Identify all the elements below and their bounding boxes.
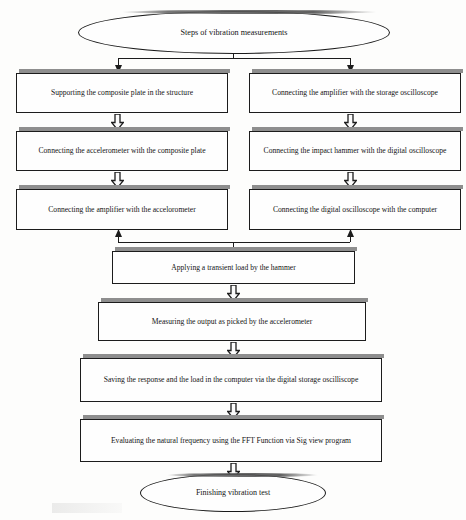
node-left-2-label: Connecting the accelerometer with the co… (39, 146, 206, 156)
box-shadow (19, 69, 230, 73)
block-arrow-down-icon (111, 172, 124, 188)
ellipse-shadow (122, 10, 376, 14)
node-end-ellipse: Finishing vibration test (140, 474, 326, 512)
box-shadow (19, 185, 230, 189)
node-start-ellipse: Steps of vibration measurements (78, 11, 390, 54)
node-left-2: Connecting the accelerometer with the co… (16, 131, 228, 171)
merge-connector-stem (233, 242, 234, 251)
thin-arrow-up-icon (347, 229, 354, 237)
block-arrow-down-icon (344, 172, 357, 188)
node-right-3: Connecting the digital oscilloscope with… (249, 189, 461, 230)
node-left-3-label: Connecting the amplifier with the accelo… (48, 205, 195, 215)
node-merged-3-label: Saving the response and the load in the … (104, 375, 359, 385)
split-connector-bar (118, 58, 350, 59)
node-merged-4: Evaluating the natural frequency using t… (80, 419, 382, 462)
box-shadow (252, 69, 463, 73)
node-left-3: Connecting the amplifier with the accelo… (16, 189, 228, 230)
box-shadow (252, 185, 463, 189)
node-right-1: Connecting the amplifier with the storag… (249, 73, 461, 113)
node-merged-4-label: Evaluating the natural frequency using t… (111, 436, 351, 446)
thin-arrow-up-icon (115, 229, 122, 237)
thin-arrow-down-icon (115, 65, 122, 73)
box-shadow (252, 127, 463, 131)
thin-arrow-down-icon (347, 65, 354, 73)
box-shadow (19, 127, 230, 131)
ellipse-shadow (167, 473, 318, 477)
block-arrow-down-icon (227, 342, 240, 358)
block-arrow-down-icon (227, 403, 240, 419)
merge-connector-bar (118, 242, 350, 243)
node-merged-2: Measuring the output as picked by the ac… (98, 302, 366, 341)
node-right-1-label: Connecting the amplifier with the storag… (272, 88, 438, 98)
node-right-3-label: Connecting the digital oscilloscope with… (273, 205, 437, 215)
node-merged-3: Saving the response and the load in the … (80, 358, 382, 402)
block-arrow-down-icon (111, 114, 124, 130)
box-shadow (115, 247, 357, 251)
node-right-2-label: Connecting the impact hammer with the di… (264, 146, 447, 156)
flowchart-canvas: Steps of vibration measurements Supporti… (0, 0, 466, 520)
node-merged-2-label: Measuring the output as picked by the ac… (152, 317, 312, 327)
block-arrow-down-icon (344, 114, 357, 130)
node-merged-1-label: Applying a transient load by the hammer (171, 263, 295, 273)
node-merged-1: Applying a transient load by the hammer (112, 251, 355, 284)
node-right-2: Connecting the impact hammer with the di… (249, 131, 461, 171)
block-arrow-down-icon (227, 285, 240, 301)
scan-artifact (52, 503, 122, 513)
node-left-1-label: Supporting the composite plate in the st… (51, 88, 193, 98)
node-end-label: Finishing vibration test (196, 488, 270, 497)
node-start-label: Steps of vibration measurements (180, 28, 287, 37)
node-left-1: Supporting the composite plate in the st… (16, 73, 228, 113)
